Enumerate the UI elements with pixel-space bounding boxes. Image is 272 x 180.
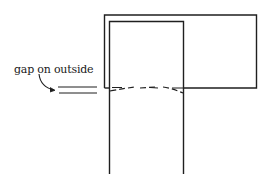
inner-column: [110, 22, 184, 175]
gap-diagram: gap on outside: [0, 0, 272, 180]
arrow-head-icon: [50, 88, 55, 93]
arrow-icon: [39, 74, 54, 90]
dashed-seam-upper: [112, 88, 183, 89]
gap-label: gap on outside: [14, 63, 93, 76]
outer-rectangle: [105, 15, 257, 88]
diagram-canvas: [0, 0, 272, 180]
